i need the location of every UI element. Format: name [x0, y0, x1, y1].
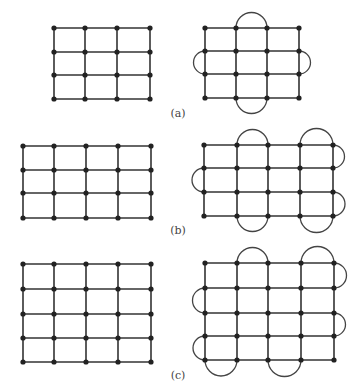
grid-c-with-arcs-arc-left	[193, 288, 206, 313]
grid-c-with-arcs-node	[298, 310, 303, 315]
grid-c-plain-node	[148, 359, 153, 364]
grid-c-with-arcs-node	[298, 285, 303, 290]
grid-a-plain-node	[114, 96, 119, 101]
grid-a-plain-node	[82, 96, 87, 101]
grid-c-with-arcs-node	[234, 285, 239, 290]
grid-b-with-arcs-node	[201, 165, 206, 170]
grid-c-with-arcs-arc-top	[237, 248, 268, 263]
grid-c-plain-node	[51, 311, 56, 316]
grid-a-plain-node	[51, 72, 56, 77]
grid-a-with-arcs-node	[233, 25, 238, 30]
grid-b-with-arcs-node	[297, 213, 302, 218]
grid-a-plain-node	[147, 49, 152, 54]
grid-a-plain-node	[51, 96, 56, 101]
grid-b-plain-node	[148, 143, 153, 148]
grid-b-with-arcs-arc-bottom	[300, 216, 333, 233]
grid-b-with-arcs-node	[234, 142, 239, 147]
grid-b-plain-node	[148, 190, 153, 195]
grid-b-plain-node	[51, 215, 56, 220]
grid-b-with-arcs-node	[234, 165, 239, 170]
figure-label-a: (a)	[170, 107, 185, 120]
grid-c-with-arcs-node	[265, 285, 270, 290]
grid-b-with-arcs-node	[297, 189, 302, 194]
grid-b-plain-node	[115, 143, 120, 148]
grid-c-with-arcs-arc-right	[334, 313, 346, 336]
grid-c-with-arcs-arc-left	[193, 336, 205, 360]
grid-c-with-arcs-node	[234, 357, 239, 362]
grid-a-with-arcs-node	[233, 71, 238, 76]
grid-c-with-arcs-arc-top	[301, 247, 334, 264]
grid-a-with-arcs-node	[233, 48, 238, 53]
grid-b-plain-node	[20, 167, 25, 172]
grid-a-with-arcs-node	[296, 71, 301, 76]
grid-c-plain-node	[20, 311, 25, 316]
grid-b-with-arcs-node	[265, 142, 270, 147]
grid-c-with-arcs-node	[331, 310, 336, 315]
grid-b-plain-node	[20, 215, 25, 220]
grid-c-plain-node	[83, 311, 88, 316]
grid-c-plain-node	[51, 261, 56, 266]
grid-c-plain-node	[51, 286, 56, 291]
grid-b-with-arcs-node	[265, 213, 270, 218]
grid-b-plain-node	[51, 143, 56, 148]
grid-b-with-arcs-node	[297, 165, 302, 170]
grid-c-plain-node	[83, 261, 88, 266]
grid-a-plain-node	[114, 49, 119, 54]
grid-a-plain-node	[82, 25, 87, 30]
grid-c-plain-node	[83, 359, 88, 364]
grid-b-plain-node	[20, 143, 25, 148]
grid-b-with-arcs-arc-top	[300, 129, 333, 146]
grid-b-with-arcs-node	[330, 165, 335, 170]
grid-b-with-arcs-arc-bottom	[237, 216, 268, 231]
grid-b-plain-node	[51, 190, 56, 195]
grid-b-plain-node	[115, 167, 120, 172]
grid-b-plain-node	[148, 167, 153, 172]
grid-a-plain-node	[51, 49, 56, 54]
grid-a-with-arcs-node	[233, 95, 238, 100]
grid-b-with-arcs-node	[234, 213, 239, 218]
grid-a-with-arcs-arc-right	[299, 51, 311, 74]
grid-c-with-arcs-node	[202, 285, 207, 290]
grid-b-with-arcs-arc-right	[333, 192, 345, 216]
grid-c-plain-node	[20, 286, 25, 291]
grid-c-with-arcs-node	[202, 333, 207, 338]
grid-a-plain-node	[51, 25, 56, 30]
grid-c-with-arcs-node	[265, 333, 270, 338]
grid-b-plain-node	[83, 190, 88, 195]
grid-c-plain-node	[51, 335, 56, 340]
grid-a-with-arcs-arc-left	[194, 51, 205, 74]
grid-b-with-arcs-node	[265, 189, 270, 194]
grid-c-with-arcs-node	[202, 260, 207, 265]
grid-b-plain-node	[83, 167, 88, 172]
grid-c-plain-node	[83, 335, 88, 340]
grid-a-plain-node	[147, 25, 152, 30]
grid-b-with-arcs-node	[330, 189, 335, 194]
grid-b-plain-node	[51, 167, 56, 172]
grid-a-plain-node	[147, 96, 152, 101]
grid-a-plain-node	[82, 72, 87, 77]
grid-c-plain-node	[148, 261, 153, 266]
grid-b-plain-node	[83, 215, 88, 220]
grid-c-with-arcs-node	[265, 310, 270, 315]
grid-a-plain-node	[114, 25, 119, 30]
grid-c-plain-node	[20, 335, 25, 340]
grid-b-plain-node	[83, 143, 88, 148]
grid-a-with-arcs-node	[296, 48, 301, 53]
grid-c-with-arcs-node	[265, 357, 270, 362]
grid-c-plain-node	[148, 335, 153, 340]
grid-a-plain-node	[114, 72, 119, 77]
grid-b-plain-node	[115, 215, 120, 220]
grid-c-with-arcs-node	[234, 333, 239, 338]
grid-a-with-arcs-node	[296, 95, 301, 100]
grid-b-with-arcs-node	[297, 142, 302, 147]
grid-b-plain-node	[20, 190, 25, 195]
grid-graphs-diagram	[0, 0, 364, 392]
grid-c-plain-node	[20, 261, 25, 266]
grid-b-plain-node	[148, 215, 153, 220]
grid-a-plain-node	[147, 72, 152, 77]
grid-c-plain-node	[115, 335, 120, 340]
grid-b-with-arcs-node	[330, 142, 335, 147]
grid-b-with-arcs-node	[265, 165, 270, 170]
grid-c-plain-node	[83, 286, 88, 291]
grid-a-with-arcs-node	[202, 48, 207, 53]
